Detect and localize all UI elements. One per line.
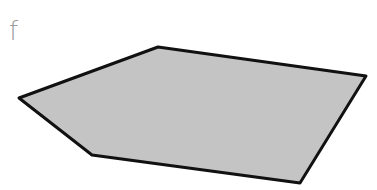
pentagon-shape: [19, 47, 366, 183]
pentagon-figure: [0, 0, 377, 190]
